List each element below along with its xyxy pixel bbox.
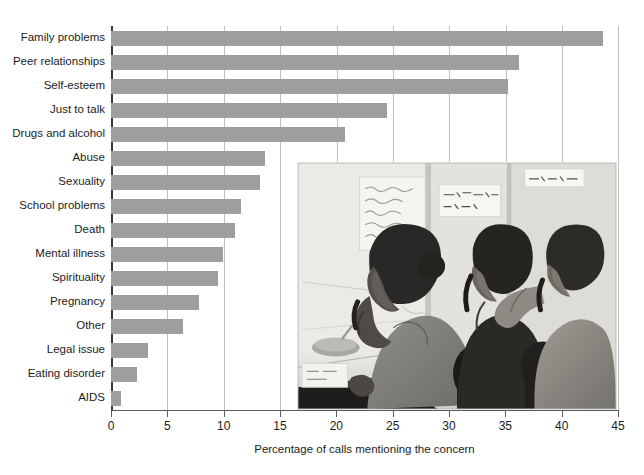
bar-sexuality — [111, 175, 260, 190]
bar-legal-issue — [111, 343, 148, 358]
category-label-drugs-and-alcohol: Drugs and alcohol — [0, 126, 105, 141]
x-tick-label-10: 10 — [204, 419, 244, 433]
x-tick-35 — [505, 410, 506, 417]
bar-spirituality — [111, 271, 218, 286]
x-tick-label-25: 25 — [373, 419, 413, 433]
category-label-school-problems: School problems — [0, 198, 105, 213]
category-label-death: Death — [0, 222, 105, 237]
bar-peer-relationships — [111, 55, 519, 70]
category-label-just-to-talk: Just to talk — [0, 102, 105, 117]
category-label-family-problems: Family problems — [0, 30, 105, 45]
category-label-other: Other — [0, 318, 105, 333]
x-tick-label-45: 45 — [598, 419, 638, 433]
bar-just-to-talk — [111, 103, 387, 118]
category-label-pregnancy: Pregnancy — [0, 294, 105, 309]
x-tick-label-30: 30 — [429, 419, 469, 433]
bar-self-esteem — [111, 79, 508, 94]
photo-artwork — [298, 163, 616, 409]
x-axis-title: Percentage of calls mentioning the conce… — [111, 443, 618, 455]
category-label-spirituality: Spirituality — [0, 270, 105, 285]
bar-drugs-and-alcohol — [111, 127, 345, 142]
bar-family-problems — [111, 31, 603, 46]
bar-death — [111, 223, 235, 238]
x-tick-15 — [280, 410, 281, 417]
category-label-abuse: Abuse — [0, 150, 105, 165]
crisis-hotline-volunteers-photo — [297, 162, 617, 410]
bar-eating-disorder — [111, 367, 137, 382]
x-tick-label-0: 0 — [91, 419, 131, 433]
bar-other — [111, 319, 183, 334]
bar-mental-illness — [111, 247, 223, 262]
x-tick-label-5: 5 — [147, 419, 187, 433]
x-tick-45 — [618, 410, 619, 417]
page-footer-strip — [0, 466, 644, 475]
gridline-45 — [618, 26, 619, 410]
x-tick-10 — [224, 410, 225, 417]
x-tick-20 — [336, 410, 337, 417]
bar-aids — [111, 391, 121, 406]
bar-pregnancy — [111, 295, 199, 310]
x-tick-5 — [167, 410, 168, 417]
bar-abuse — [111, 151, 265, 166]
x-axis-line — [111, 410, 618, 411]
category-label-mental-illness: Mental illness — [0, 246, 105, 261]
category-label-aids: AIDS — [0, 390, 105, 405]
category-label-self-esteem: Self-esteem — [0, 78, 105, 93]
x-tick-25 — [393, 410, 394, 417]
x-tick-0 — [111, 410, 112, 417]
x-tick-40 — [562, 410, 563, 417]
x-tick-30 — [449, 410, 450, 417]
category-label-peer-relationships: Peer relationships — [0, 54, 105, 69]
x-tick-label-20: 20 — [316, 419, 356, 433]
x-tick-label-15: 15 — [260, 419, 300, 433]
figure-bar-chart-calls: Family problemsPeer relationshipsSelf-es… — [0, 0, 644, 475]
category-label-eating-disorder: Eating disorder — [0, 366, 105, 381]
x-tick-label-35: 35 — [485, 419, 525, 433]
bar-school-problems — [111, 199, 241, 214]
category-label-sexuality: Sexuality — [0, 174, 105, 189]
category-label-legal-issue: Legal issue — [0, 342, 105, 357]
x-tick-label-40: 40 — [542, 419, 582, 433]
